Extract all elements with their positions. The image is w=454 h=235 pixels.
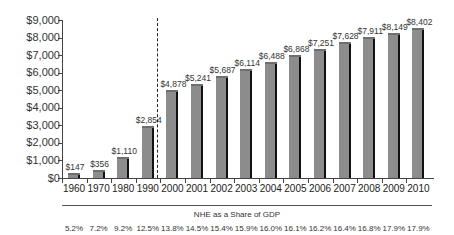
x-category-label: 2010 [407,183,429,194]
x-category-label: 2006 [309,183,331,194]
y-tick-label: $4,000 [26,102,60,113]
y-tick-label: $2,000 [26,137,60,148]
y-tick-label: $1,000 [26,155,60,166]
x-tick-mark [210,179,211,183]
value-label: $5,241 [185,73,211,83]
value-label: $8,402 [406,17,432,27]
gdp-share-value: 16.1% [284,224,307,233]
x-category-label: 2003 [235,183,257,194]
bar [166,92,178,178]
y-tick-label: $7,000 [26,50,60,61]
x-tick-mark [136,179,137,183]
x-tick-mark [87,179,88,183]
x-category-label: 1990 [137,183,159,194]
value-label: $7,251 [308,38,334,48]
y-tick-label: $5,000 [26,85,60,96]
bar [240,71,252,178]
value-label: $1,110 [112,146,137,156]
gdp-share-value: 15.9% [235,224,258,233]
y-tick-label: $9,000 [26,15,60,26]
x-tick-mark [333,179,334,183]
y-tick-label: $3,000 [26,120,60,131]
bar [289,57,301,178]
gdp-share-value: 17.9% [382,224,405,233]
x-category-label: 2004 [260,183,282,194]
y-tick-label: $8,000 [26,32,60,43]
bar [216,78,228,178]
x-category-label: 2008 [358,183,380,194]
bar [363,39,375,178]
y-tick-mark [58,125,62,126]
bar [93,172,105,178]
x-tick-mark [308,179,309,183]
gdp-share-value: 16.8% [358,224,381,233]
value-label: $6,114 [235,58,260,68]
x-tick-mark [160,179,161,183]
gdp-share-value: 16.2% [309,224,332,233]
x-category-label: 1980 [112,183,134,194]
x-category-label: 1960 [63,183,85,194]
x-tick-mark [259,179,260,183]
gdp-share-value: 16.4% [333,224,356,233]
y-tick-mark [58,143,62,144]
x-category-label: 2001 [186,183,208,194]
x-category-label: 2007 [333,183,355,194]
x-tick-mark [357,179,358,183]
bar [339,44,351,178]
x-axis-line [62,178,434,179]
gdp-share-value: 14.5% [186,224,209,233]
y-axis-line [62,20,63,179]
gdp-share-value: 9.2% [114,224,132,233]
value-label: $8,149 [382,22,408,32]
x-category-label: 1970 [87,183,109,194]
bar [142,128,154,178]
gdp-share-value: 7.2% [89,224,107,233]
gdp-section-divider [62,205,432,206]
value-label: $147 [66,162,85,172]
x-category-label: 2005 [284,183,306,194]
bar [265,64,277,178]
x-category-label: 2000 [161,183,183,194]
bar [68,175,80,178]
y-tick-mark [58,20,62,21]
bar [314,51,326,178]
x-tick-mark [382,179,383,183]
x-tick-mark [406,179,407,183]
y-tick-mark [58,73,62,74]
x-tick-mark [234,179,235,183]
x-tick-mark [283,179,284,183]
y-tick-mark [58,38,62,39]
value-label: $7,628 [333,31,359,41]
x-tick-mark [62,179,63,183]
period-divider-line [157,18,158,178]
gdp-share-value: 5.2% [65,224,83,233]
value-label: $356 [90,159,109,169]
bar [191,86,203,178]
y-tick-mark [58,160,62,161]
gdp-share-value: 15.4% [210,224,233,233]
gdp-share-title: NHE as a Share of GDP [0,210,454,219]
y-tick-mark [58,108,62,109]
gdp-share-value: 13.8% [161,224,184,233]
value-label: $6,488 [259,51,285,61]
value-label: $6,868 [283,44,309,54]
x-tick-mark [185,179,186,183]
x-category-label: 2009 [383,183,405,194]
gdp-share-value: 17.9% [407,224,430,233]
y-tick-label: $6,000 [26,67,60,78]
y-tick-mark [58,90,62,91]
x-category-label: 2002 [210,183,232,194]
bar [412,30,424,178]
value-label: $5,687 [210,65,236,75]
x-tick-mark [111,179,112,183]
bar [388,35,400,178]
gdp-share-value: 16.0% [259,224,282,233]
value-label: $4,878 [160,79,186,89]
gdp-share-value: 12.5% [136,224,159,233]
bar [117,159,129,178]
y-tick-mark [58,55,62,56]
value-label: $7,911 [358,26,383,36]
